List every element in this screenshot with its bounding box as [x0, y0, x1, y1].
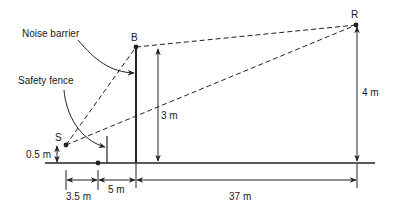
safety-fence-label: Safety fence [18, 75, 74, 86]
receiver-point [354, 23, 359, 28]
label-B: B [131, 32, 138, 43]
noise-barrier-callout-arrow [78, 40, 134, 73]
distance-5m-label: 5 m [108, 184, 125, 195]
label-S: S [55, 132, 62, 143]
source-height-label: 0.5 m [26, 149, 51, 160]
receiver-height-label: 4 m [362, 87, 379, 98]
distance-3-5m-label: 3.5 m [66, 191, 91, 202]
label-R: R [351, 9, 358, 20]
distance-37m-label: 37 m [229, 191, 251, 202]
barrier-top-point [134, 45, 139, 50]
noise-barrier-diagram: S B R Noise barrier Safety fence 0.5 m 3… [0, 0, 395, 211]
sightline-barrier-to-receiver [136, 25, 356, 47]
barrier-height-label: 3 m [161, 110, 178, 121]
source-point [64, 143, 69, 148]
sightline-source-to-receiver [66, 25, 356, 145]
ground-marker-point [96, 161, 101, 166]
noise-barrier-label: Noise barrier [22, 28, 80, 39]
